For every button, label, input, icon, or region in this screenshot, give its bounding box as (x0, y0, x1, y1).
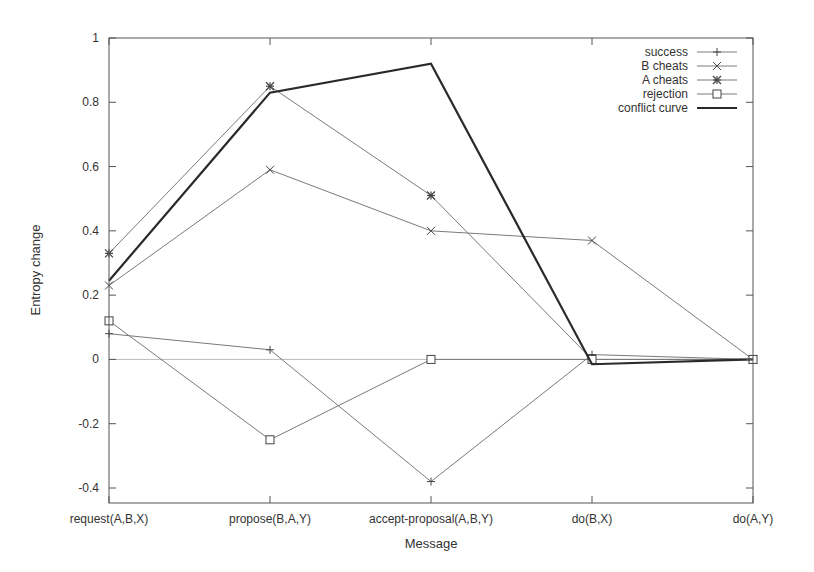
legend-label: rejection (643, 87, 688, 101)
legend-label: B cheats (641, 59, 688, 73)
y-tick-label: 0.8 (82, 95, 99, 109)
x-tick-label: accept-proposal(A,B,Y) (369, 512, 493, 526)
x-axis-label: Message (405, 536, 458, 551)
legend-item: conflict curve (618, 101, 737, 115)
series-layer (105, 64, 757, 486)
legend-item: B cheats (641, 59, 737, 73)
y-tick-label: 1 (92, 31, 99, 45)
series-a-cheats (105, 82, 757, 363)
y-tick-label: -0.2 (78, 417, 99, 431)
legend-item: A cheats (642, 73, 737, 87)
legend-item: rejection (643, 87, 737, 101)
legend-item: success (645, 45, 737, 59)
x-tick-label: do(A,Y) (733, 512, 774, 526)
legend-label: A cheats (642, 73, 688, 87)
y-tick-label: 0.4 (82, 224, 99, 238)
x-tick-label: do(B,X) (572, 512, 613, 526)
entropy-change-chart: -0.4-0.200.20.40.60.81 request(A,B,X)pro… (0, 0, 814, 572)
series-success (105, 330, 757, 486)
legend: successB cheatsA cheatsrejectionconflict… (618, 45, 737, 115)
legend-label: success (645, 45, 688, 59)
x-tick-label: propose(B,A,Y) (229, 512, 311, 526)
y-tick-label: 0 (92, 352, 99, 366)
y-tick-label: 0.6 (82, 160, 99, 174)
series-rejection (105, 317, 757, 444)
x-tick-label: request(A,B,X) (70, 512, 149, 526)
y-tick-label: 0.2 (82, 288, 99, 302)
legend-label: conflict curve (618, 101, 688, 115)
y-tick-label: -0.4 (78, 481, 99, 495)
y-axis-label: Entropy change (28, 224, 43, 315)
